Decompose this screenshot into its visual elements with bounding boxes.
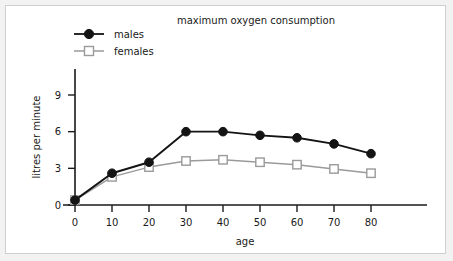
y-tick-label: 9 — [55, 90, 61, 101]
data-point-marker-open-square — [367, 169, 375, 177]
chart-axes — [63, 69, 427, 205]
data-point-marker-open-square — [293, 160, 301, 168]
data-point-marker-filled-circle — [145, 158, 154, 167]
chart-title: maximum oxygen consumption — [177, 15, 335, 26]
data-point-marker-filled-circle — [293, 133, 302, 142]
legend-marker-filled-circle-icon — [84, 29, 93, 38]
x-tick-label: 40 — [217, 217, 230, 228]
x-tick-label: 60 — [291, 217, 304, 228]
legend-marker-open-square-icon — [85, 47, 94, 56]
x-tick-label: 0 — [72, 217, 78, 228]
legend-item-females: females — [74, 46, 154, 57]
y-axis-title: litres per minute — [31, 96, 42, 179]
data-point-marker-filled-circle — [182, 127, 191, 136]
series-line-males — [75, 132, 371, 200]
x-tick-label: 30 — [180, 217, 193, 228]
data-point-marker-filled-circle — [219, 127, 228, 136]
data-point-marker-filled-circle — [367, 149, 376, 158]
series-females — [71, 156, 375, 205]
data-point-marker-open-square — [182, 157, 190, 165]
data-point-marker-filled-circle — [256, 131, 265, 140]
data-point-marker-open-square — [330, 165, 338, 173]
oxygen-consumption-line-chart: maximum oxygen consumption males females… — [6, 6, 445, 253]
data-point-marker-filled-circle — [71, 196, 80, 205]
legend-label-females: females — [114, 46, 154, 57]
y-tick-label: 0 — [55, 200, 61, 211]
x-tick-label: 20 — [143, 217, 156, 228]
data-point-marker-open-square — [256, 158, 264, 166]
x-axis-ticks: 01020304050607080 — [72, 205, 378, 228]
chart-figure-panel: maximum oxygen consumption males females… — [5, 5, 446, 254]
data-point-marker-open-square — [219, 156, 227, 164]
x-tick-label: 70 — [328, 217, 341, 228]
y-tick-label: 6 — [55, 126, 61, 137]
chart-legend: males females — [74, 29, 154, 57]
y-axis-ticks: 0369 — [55, 90, 75, 211]
x-axis-title: age — [236, 236, 255, 247]
data-point-marker-filled-circle — [330, 140, 339, 149]
legend-item-males: males — [74, 29, 144, 40]
x-tick-label: 80 — [365, 217, 378, 228]
x-tick-label: 10 — [106, 217, 119, 228]
legend-label-males: males — [114, 29, 144, 40]
data-point-marker-filled-circle — [108, 169, 117, 178]
series-line-females — [75, 160, 371, 200]
x-tick-label: 50 — [254, 217, 267, 228]
y-tick-label: 3 — [55, 163, 61, 174]
